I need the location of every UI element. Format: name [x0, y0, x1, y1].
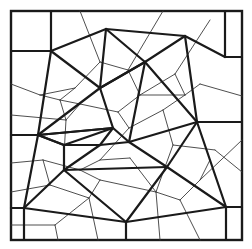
voronoi-edge — [100, 62, 128, 70]
voronoi-edge — [175, 74, 185, 95]
delaunay-edge — [38, 88, 100, 135]
delaunay-edge — [129, 142, 167, 167]
delaunay-edge — [51, 29, 106, 51]
voronoi-edge — [163, 110, 173, 145]
voronoi-edge — [80, 104, 118, 112]
voronoi-edge — [163, 95, 185, 110]
voronoi-edge — [156, 192, 180, 200]
delaunay-edge — [106, 29, 145, 62]
delaunay-edge — [167, 167, 226, 207]
voronoi-edge — [80, 170, 100, 180]
delaunay-edge — [197, 122, 226, 207]
voronoi-edge — [43, 160, 50, 185]
delaunay-edge — [126, 207, 226, 222]
voronoi-edge — [180, 200, 200, 240]
voronoi-edge — [100, 158, 130, 160]
delaunay-edge — [64, 167, 167, 170]
voronoi-edge — [11, 84, 40, 95]
delaunay-edge — [100, 142, 129, 145]
voronoi-edge — [55, 198, 89, 225]
voronoi-edge — [118, 112, 129, 128]
mesh-diagram — [0, 0, 252, 249]
delaunay-edge — [126, 167, 167, 222]
voronoi-edge — [11, 160, 43, 163]
voronoi-edge — [200, 160, 210, 180]
delaunay-edge — [185, 36, 225, 57]
delaunay-edge — [145, 36, 185, 62]
voronoi-edge — [100, 180, 156, 192]
delaunay-edge — [38, 135, 64, 145]
delaunay-edge — [100, 62, 145, 88]
delaunay-edges — [11, 11, 242, 240]
delaunay-edge — [106, 29, 185, 36]
voronoi-edge — [60, 100, 80, 104]
delaunay-edge — [100, 29, 106, 88]
delaunay-edge — [100, 88, 113, 128]
voronoi-edge — [55, 225, 58, 240]
voronoi-edge — [200, 84, 242, 96]
delaunay-edge — [64, 145, 100, 170]
